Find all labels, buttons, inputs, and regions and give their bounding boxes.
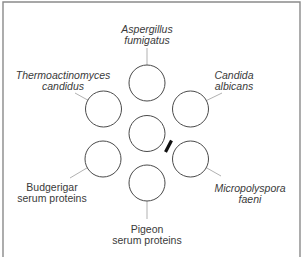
label-bottom-line2: serum proteins bbox=[112, 234, 181, 246]
label-upper-left: Thermoactinomyces candidus bbox=[16, 69, 111, 92]
well-upper-right bbox=[173, 91, 209, 127]
label-top: Aspergillus fumigatus bbox=[120, 23, 173, 46]
well-upper-left bbox=[86, 91, 122, 127]
label-lower-left-line2: serum proteins bbox=[17, 192, 86, 204]
precipitin-band bbox=[166, 141, 172, 153]
immunodiffusion-diagram: Aspergillus fumigatus Thermoactinomyces … bbox=[0, 0, 303, 257]
well-center bbox=[129, 116, 165, 152]
label-lower-right-line2: faeni bbox=[239, 193, 262, 205]
well-lower-right bbox=[173, 141, 209, 177]
label-bottom: Pigeon serum proteins bbox=[112, 223, 181, 246]
label-upper-right-line2: albicans bbox=[215, 80, 254, 92]
label-lower-left: Budgerigar serum proteins bbox=[17, 181, 86, 204]
label-upper-left-line2: candidus bbox=[42, 80, 85, 92]
well-bottom bbox=[129, 165, 165, 201]
label-upper-right: Candida albicans bbox=[214, 69, 254, 92]
label-lower-right: Micropolyspora faeni bbox=[214, 182, 285, 205]
label-top-line2: fumigatus bbox=[124, 34, 170, 46]
well-lower-left bbox=[85, 141, 121, 177]
well-top bbox=[129, 65, 165, 101]
